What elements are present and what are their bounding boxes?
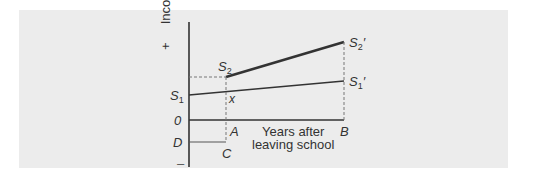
- label-a: A: [230, 125, 239, 138]
- minus-sign: –: [177, 157, 184, 170]
- label-b: B: [340, 125, 349, 138]
- label-s1-prime: S1′: [349, 75, 365, 91]
- label-s2-prime: S2′: [349, 36, 365, 52]
- label-d: D: [173, 136, 182, 149]
- plus-sign: +: [158, 42, 173, 50]
- diagram-lines: [0, 0, 551, 186]
- label-c: C: [222, 147, 231, 160]
- s1-income-line: [189, 81, 344, 95]
- label-origin: 0: [174, 114, 181, 127]
- y-axis-title: + Income: [158, 0, 173, 50]
- income-label: Income: [158, 0, 173, 24]
- s2-income-line: [226, 42, 344, 77]
- label-s2: S2: [218, 60, 232, 76]
- x-axis-title-line2: leaving school: [252, 138, 334, 151]
- label-s1: S1: [170, 89, 184, 105]
- label-x: x: [229, 93, 235, 105]
